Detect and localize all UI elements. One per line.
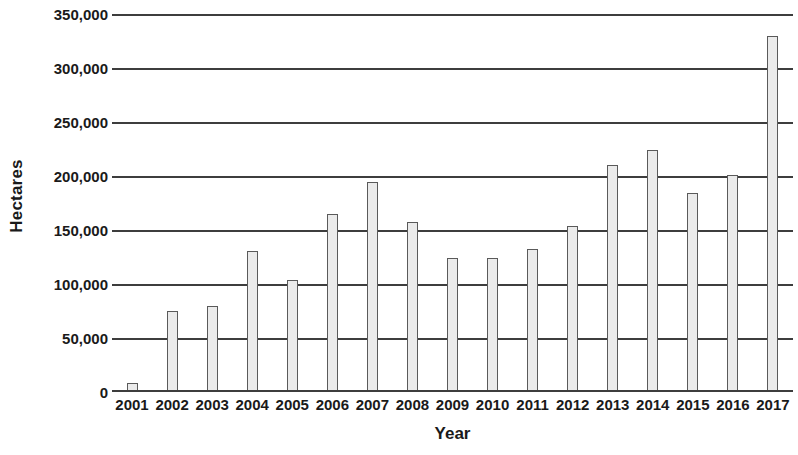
x-axis-tick-label: 2009 (431, 396, 475, 413)
x-axis-tick-label: 2015 (671, 396, 715, 413)
bar-chart: Hectares 050,000100,000150,000200,000250… (0, 0, 798, 455)
y-axis-tick-label: 200,000 (34, 168, 108, 185)
x-axis-tick-label: 2010 (471, 396, 515, 413)
y-axis-tick-label: 0 (34, 384, 108, 401)
x-axis-tick-label: 2016 (711, 396, 755, 413)
bar (647, 150, 658, 392)
x-axis-tick-label: 2012 (551, 396, 595, 413)
x-axis-tick-labels: 2001200220032004200520062007200820092010… (112, 394, 793, 420)
bar (367, 182, 378, 392)
bar (767, 36, 778, 392)
y-axis-tick-label: 150,000 (34, 222, 108, 239)
x-axis-tick-label: 2006 (310, 396, 354, 413)
x-axis-tick-label: 2004 (230, 396, 274, 413)
plot-area (112, 14, 793, 392)
x-axis-tick-label: 2013 (591, 396, 635, 413)
bar (527, 249, 538, 392)
x-axis-title: Year (112, 424, 793, 444)
x-axis-tick-label: 2002 (150, 396, 194, 413)
bar (607, 165, 618, 392)
bar (687, 193, 698, 392)
x-axis-line (112, 390, 793, 392)
x-axis-tick-label: 2005 (270, 396, 314, 413)
bar (287, 280, 298, 392)
x-axis-tick-label: 2008 (390, 396, 434, 413)
y-axis-title-text: Hectares (7, 159, 27, 232)
bar (167, 311, 178, 392)
y-axis-tick-label: 300,000 (34, 60, 108, 77)
x-axis-tick-label: 2003 (190, 396, 234, 413)
x-axis-tick-label: 2011 (511, 396, 555, 413)
y-axis-tick-label: 50,000 (34, 330, 108, 347)
bar (567, 226, 578, 392)
bar (247, 251, 258, 392)
bar (327, 214, 338, 392)
bar (487, 258, 498, 392)
x-axis-tick-label: 2001 (110, 396, 154, 413)
bar (407, 222, 418, 392)
x-axis-tick-label: 2017 (751, 396, 795, 413)
bar (447, 258, 458, 392)
x-axis-tick-label: 2007 (350, 396, 394, 413)
y-axis-tick-label: 100,000 (34, 276, 108, 293)
x-axis-tick-label: 2014 (631, 396, 675, 413)
bar-series (112, 14, 793, 392)
y-axis-title: Hectares (0, 0, 34, 392)
y-axis-tick-labels: 050,000100,000150,000200,000250,000300,0… (34, 0, 108, 392)
y-axis-tick-label: 350,000 (34, 6, 108, 23)
bar (727, 175, 738, 392)
bar (207, 306, 218, 392)
y-axis-tick-label: 250,000 (34, 114, 108, 131)
